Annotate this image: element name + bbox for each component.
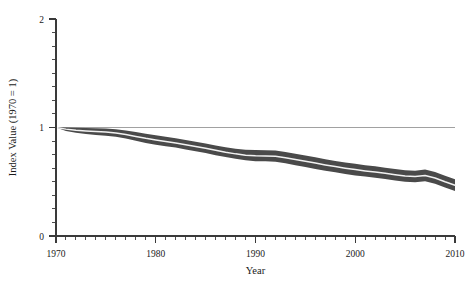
y-tick-label: 2 bbox=[39, 15, 44, 25]
y-tick-label: 1 bbox=[39, 123, 44, 133]
y-tick-label: 0 bbox=[39, 232, 44, 242]
uncertainty-band bbox=[56, 128, 455, 191]
chart-plot-area: 01219701980199020002010YearIndex Value (… bbox=[7, 15, 465, 277]
x-tick-label: 1990 bbox=[246, 249, 265, 259]
index-trend-chart: 01219701980199020002010YearIndex Value (… bbox=[0, 0, 475, 296]
x-tick-label: 1970 bbox=[47, 249, 66, 259]
x-axis-title: Year bbox=[246, 265, 266, 276]
x-tick-label: 1980 bbox=[146, 249, 165, 259]
x-tick-label: 2000 bbox=[346, 249, 365, 259]
chart-figure: 01219701980199020002010YearIndex Value (… bbox=[0, 0, 475, 296]
x-tick-label: 2010 bbox=[446, 249, 465, 259]
y-axis-title: Index Value (1970 = 1) bbox=[7, 78, 19, 176]
